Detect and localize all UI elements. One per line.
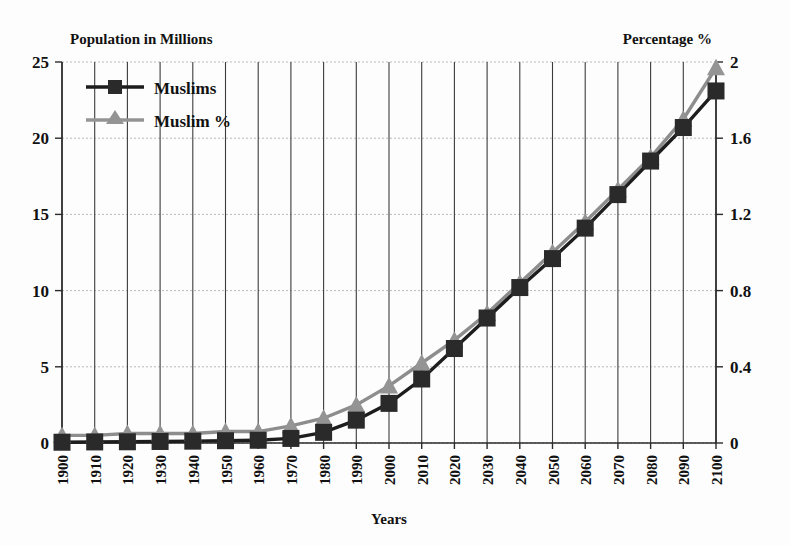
data-point-muslims [348, 412, 365, 429]
data-point-muslims [446, 340, 463, 357]
x-axis-tick-label: 1910 [88, 455, 104, 485]
data-point-muslims [152, 433, 169, 450]
right-axis-title: Percentage % [623, 31, 712, 47]
left-axis-title: Population in Millions [70, 31, 213, 47]
data-point-muslims [217, 432, 234, 449]
data-point-muslims [250, 432, 267, 449]
data-point-muslims [609, 186, 626, 203]
legend-label-muslim-percent: Muslim % [154, 112, 231, 131]
x-axis-tick-label: 2060 [578, 455, 594, 485]
x-axis-tick-label: 1930 [153, 455, 169, 485]
left-axis-tick-label: 25 [32, 53, 49, 72]
x-axis-tick-labels: 1900191019201930194019501960197019801990… [55, 455, 725, 485]
left-axis-tick-label: 0 [41, 434, 50, 453]
x-axis-tick-label: 2040 [513, 455, 529, 485]
data-point-muslims [675, 119, 692, 136]
x-axis-tick-label: 1940 [186, 455, 202, 485]
data-point-muslims [282, 430, 299, 447]
x-axis-tick-label: 2050 [546, 455, 562, 485]
data-point-muslims [511, 279, 528, 296]
data-point-muslims [184, 433, 201, 450]
right-axis-tick-label: 0.4 [730, 358, 752, 377]
x-axis-tick-label: 2070 [611, 455, 627, 485]
data-point-muslims [479, 310, 496, 327]
x-axis-tick-label: 2030 [480, 455, 496, 485]
data-point-muslims [86, 433, 103, 450]
x-axis-tick-label: 1920 [120, 455, 136, 485]
right-axis-tick-label: 2 [730, 53, 739, 72]
x-axis-tick-label: 2000 [382, 455, 398, 485]
data-point-muslims [54, 434, 71, 451]
x-axis-tick-label: 2090 [676, 455, 692, 485]
data-point-muslims [413, 370, 430, 387]
right-axis-tick-label: 0 [730, 434, 739, 453]
left-axis-tick-label: 10 [32, 282, 49, 301]
x-axis-tick-label: 1980 [317, 455, 333, 485]
x-axis-tick-label: 2020 [447, 455, 463, 485]
x-axis-tick-label: 2080 [644, 455, 660, 485]
x-axis-tick-label: 2010 [415, 455, 431, 485]
data-point-muslims [381, 395, 398, 412]
chart-container: Population in Millions Percentage % 0510… [0, 0, 790, 545]
data-point-muslims [544, 250, 561, 267]
right-axis-tick-label: 0.8 [730, 282, 751, 301]
right-axis-tick-label: 1.2 [730, 205, 751, 224]
data-point-muslims [315, 424, 332, 441]
x-axis-tick-label: 1970 [284, 455, 300, 485]
legend-square-marker-icon [108, 80, 122, 94]
data-point-muslims [708, 82, 725, 99]
left-axis-tick-label: 15 [32, 205, 49, 224]
population-percentage-line-chart: Population in Millions Percentage % 0510… [0, 0, 790, 545]
x-axis-tick-label: 1950 [219, 455, 235, 485]
x-axis-title: Years [371, 511, 407, 527]
x-axis-tick-label: 1990 [349, 455, 365, 485]
left-axis-tick-label: 5 [41, 358, 50, 377]
x-axis-tick-label: 1960 [251, 455, 267, 485]
right-axis-tick-label: 1.6 [730, 129, 751, 148]
x-axis-tick-label: 2100 [709, 455, 725, 485]
data-point-muslims [577, 220, 594, 237]
x-axis-tick-label: 1900 [55, 455, 71, 485]
legend-label-muslims: Muslims [154, 79, 217, 98]
data-point-muslims [642, 153, 659, 170]
data-point-muslims [119, 433, 136, 450]
left-axis-tick-label: 20 [32, 129, 49, 148]
